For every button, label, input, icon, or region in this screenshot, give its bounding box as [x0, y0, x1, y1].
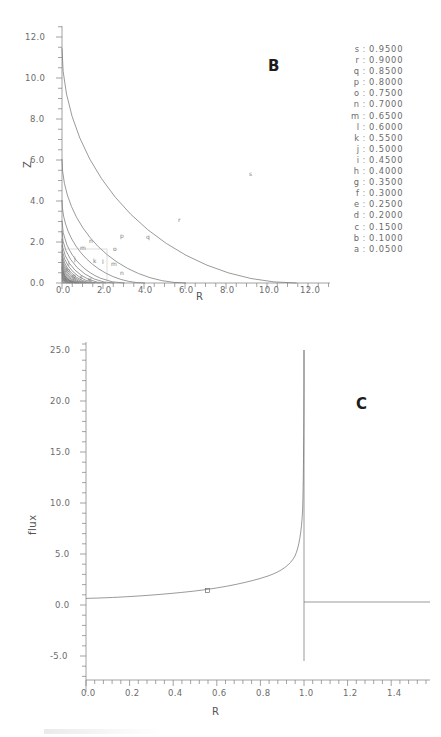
legend-separator: : — [359, 66, 369, 77]
panel-b-x-axis-title: R — [196, 291, 203, 302]
legend-separator: : — [359, 188, 369, 199]
panel-b-contour-label: m — [111, 260, 117, 267]
legend-row: p : 0.8000 — [348, 77, 440, 88]
panel-c-x-ticklabel: 1.4 — [387, 688, 401, 698]
legend-key: g — [348, 177, 359, 188]
panel-b-contour-label: n — [120, 269, 124, 276]
panel-c-y-ticklabel: 25.0 — [50, 345, 70, 355]
legend-value: 0.3000 — [369, 188, 440, 199]
legend-row: h : 0.4000 — [348, 166, 440, 177]
panel-b-contour-label: a — [63, 275, 67, 282]
panel-b-contour-label: s — [249, 170, 252, 177]
legend-separator: : — [359, 99, 369, 110]
contour-level-legend: s : 0.9500 r : 0.9000 q : 0.8500 p : 0.8… — [348, 44, 440, 255]
panel-c-x-axis-title: R — [212, 706, 219, 717]
legend-value: 0.2500 — [369, 199, 440, 210]
legend-value: 0.6000 — [369, 122, 440, 133]
panel-c-y-ticklabel: -5.0 — [50, 651, 68, 661]
legend-value: 0.9500 — [369, 44, 440, 55]
panel-b-plot-svg: s r q p o n m k l m n j i h g f e a — [0, 0, 340, 310]
panel-b-contour-plot: B Z R 0.0 2.0 4.0 6.0 8.0 10.0 12.0 0.0 … — [0, 0, 340, 310]
panel-c-x-ticklabel: 0.4 — [168, 688, 182, 698]
legend-row: q : 0.8500 — [348, 66, 440, 77]
panel-b-y-ticklabel: 2.0 — [30, 237, 44, 247]
legend-row: b : 0.1000 — [348, 233, 440, 244]
legend-separator: : — [359, 133, 369, 144]
panel-b-contour-label: f — [80, 274, 83, 281]
panel-b-x-ticklabel: 6.0 — [179, 285, 193, 295]
panel-b-y-ticklabel: 4.0 — [30, 196, 44, 206]
legend-row: m : 0.6500 — [348, 111, 440, 122]
legend-key: k — [348, 133, 359, 144]
legend-separator: : — [359, 144, 369, 155]
legend-key: o — [348, 88, 359, 99]
legend-value: 0.1000 — [369, 233, 440, 244]
legend-separator: : — [359, 244, 369, 255]
panel-b-x-ticklabel: 2.0 — [97, 285, 111, 295]
legend-separator: : — [359, 111, 369, 122]
legend-separator: : — [359, 177, 369, 188]
legend-key: d — [348, 210, 359, 221]
legend-key: p — [348, 77, 359, 88]
panel-c-y-axis-title: flux — [27, 514, 38, 535]
legend-row: g : 0.3500 — [348, 177, 440, 188]
legend-row: r : 0.9000 — [348, 55, 440, 66]
panel-b-contour-label: m — [80, 244, 86, 251]
panel-c-y-ticks — [80, 344, 86, 676]
panel-b-x-ticklabel: 10.0 — [259, 285, 279, 295]
panel-c-flux-plot: C flux R 25.0 20.0 15.0 10.0 5.0 0.0 -5.… — [0, 320, 441, 720]
legend-value: 0.9000 — [369, 55, 440, 66]
panel-c-y-ticklabel: 15.0 — [50, 447, 70, 457]
legend-value: 0.3500 — [369, 177, 440, 188]
legend-key: h — [348, 166, 359, 177]
legend-row: s : 0.9500 — [348, 44, 440, 55]
panel-b-contour-label: g — [72, 272, 76, 280]
legend-value: 0.2000 — [369, 210, 440, 221]
legend-key: c — [348, 222, 359, 233]
legend-separator: : — [359, 155, 369, 166]
legend-value: 0.6500 — [369, 111, 440, 122]
legend-separator: : — [359, 77, 369, 88]
panel-b-x-ticklabel: 8.0 — [220, 285, 234, 295]
panel-c-flux-curve-rising — [86, 350, 304, 598]
legend-value: 0.1500 — [369, 222, 440, 233]
panel-b-axes — [62, 26, 330, 283]
panel-c-x-ticklabel: 0.8 — [256, 688, 270, 698]
panel-b-contour-label: p — [120, 232, 124, 240]
legend-key: a — [348, 244, 359, 255]
legend-key: f — [348, 188, 359, 199]
panel-b-y-ticklabel: 10.0 — [25, 73, 45, 83]
panel-c-x-ticklabel: 0.0 — [81, 688, 95, 698]
page-bottom-artifact — [44, 729, 164, 734]
legend-row: a : 0.0500 — [348, 244, 440, 255]
legend-key: i — [348, 155, 359, 166]
panel-b-x-ticklabel: 0.0 — [56, 285, 70, 295]
legend-separator: : — [359, 55, 369, 66]
panel-b-x-ticklabel: 4.0 — [138, 285, 152, 295]
panel-c-x-ticklabel: 1.2 — [343, 688, 357, 698]
legend-key: e — [348, 199, 359, 210]
legend-separator: : — [359, 44, 369, 55]
panel-c-y-ticklabel: 20.0 — [50, 396, 70, 406]
legend-key: q — [348, 66, 359, 77]
panel-b-contour-label: h — [66, 266, 70, 273]
legend-value: 0.5000 — [369, 144, 440, 155]
legend-value: 0.7000 — [369, 99, 440, 110]
legend-value: 0.4000 — [369, 166, 440, 177]
panel-b-contour-label: q — [146, 233, 150, 241]
panel-b-y-ticklabel: 8.0 — [30, 114, 44, 124]
legend-row: k : 0.5500 — [348, 133, 440, 144]
panel-b-contour-label: e — [88, 275, 92, 282]
panel-b-letter: B — [268, 57, 279, 75]
panel-b-y-ticklabel: 12.0 — [25, 32, 45, 42]
legend-separator: : — [359, 199, 369, 210]
panel-b-contours — [62, 48, 297, 283]
panel-b-y-ticklabel: 6.0 — [30, 155, 44, 165]
legend-key: s — [348, 44, 359, 55]
legend-row: l : 0.6000 — [348, 122, 440, 133]
panel-b-y-ticks — [56, 27, 62, 283]
legend-row: o : 0.7500 — [348, 88, 440, 99]
legend-key: n — [348, 99, 359, 110]
legend-row: i : 0.4500 — [348, 155, 440, 166]
legend-key: b — [348, 233, 359, 244]
